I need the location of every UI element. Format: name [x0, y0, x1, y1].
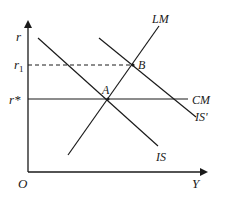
point-b-label: B [138, 58, 146, 72]
r-star-label: r* [9, 92, 21, 107]
is-prime-label: IS' [194, 110, 208, 124]
point-a-marker [106, 97, 109, 100]
is-label: IS [155, 150, 166, 164]
is-curve [38, 38, 158, 146]
lm-label: LM [151, 12, 170, 26]
origin-label: O [18, 176, 28, 191]
r1-label: r1 [14, 57, 24, 74]
lm-curve [68, 26, 159, 155]
r1-label-sub: 1 [19, 64, 24, 74]
y-axis-label: r [16, 29, 22, 44]
cm-label: CM [192, 93, 211, 107]
is-lm-cm-diagram: r r1 r* LM CM IS' IS A B O Y [0, 0, 226, 197]
point-a-label: A [101, 83, 110, 97]
x-axis-label: Y [192, 176, 201, 191]
is-prime-curve [99, 38, 196, 117]
point-b-marker [131, 63, 134, 66]
